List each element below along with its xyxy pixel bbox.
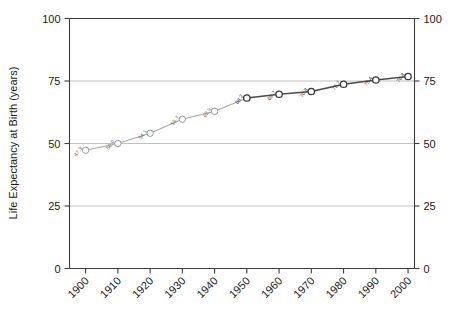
data-point-labels: 47.350.054.159.762.968.269.770.873.775.4… [73, 72, 406, 158]
y-tick-label-left-25: 25 [48, 200, 60, 212]
data-point-1960 [276, 91, 282, 97]
data-series [86, 77, 408, 151]
data-point-1940 [211, 108, 217, 114]
x-tick-label-1970: 1970 [291, 274, 317, 300]
data-point-1930 [179, 116, 185, 122]
x-tick-label-1930: 1930 [162, 274, 188, 300]
data-point-1970 [308, 88, 314, 94]
x-tick-label-1960: 1960 [259, 274, 285, 300]
y-axis-left-ticks: 0255075100 [42, 13, 69, 275]
y-tick-label-left-75: 75 [48, 75, 60, 87]
x-tick-label-1940: 1940 [194, 274, 220, 300]
y-tick-label-right-100: 100 [424, 13, 442, 25]
y-tick-label-right-0: 0 [424, 263, 430, 275]
x-tick-label-1990: 1990 [355, 274, 381, 300]
y-axis-title: Life Expectancy at Birth (years) [7, 67, 19, 220]
x-tick-label-1950: 1950 [226, 274, 252, 300]
y-tick-label-right-75: 75 [424, 75, 436, 87]
gridlines [70, 19, 415, 207]
x-tick-label-1920: 1920 [130, 274, 156, 300]
x-tick-label-1980: 1980 [323, 274, 349, 300]
life-expectancy-chart: 0255075100 0255075100 190019101920193019… [0, 0, 463, 329]
data-point-1900 [82, 147, 88, 153]
y-tick-label-right-25: 25 [424, 200, 436, 212]
data-point-1910 [115, 140, 121, 146]
y-axis-right-ticks: 0255075100 [415, 13, 442, 275]
x-axis-ticks: 1900191019201930194019501960197019801990… [65, 269, 413, 301]
y-tick-label-left-0: 0 [54, 263, 60, 275]
data-point-1950 [244, 95, 250, 101]
chart-canvas: 0255075100 0255075100 190019101920193019… [0, 0, 463, 329]
data-markers [82, 73, 411, 153]
y-tick-label-left-100: 100 [42, 13, 60, 25]
data-point-label-1900: 47.3 [73, 145, 84, 157]
x-tick-label-1910: 1910 [97, 274, 123, 300]
y-tick-label-right-50: 50 [424, 138, 436, 150]
data-point-1920 [147, 130, 153, 136]
data-point-1990 [373, 77, 379, 83]
y-tick-label-left-50: 50 [48, 138, 60, 150]
data-point-1980 [340, 81, 346, 87]
data-point-label-1970: 70.8 [298, 87, 309, 99]
data-point-2000 [405, 73, 411, 79]
x-tick-label-2000: 2000 [388, 274, 414, 300]
x-tick-label-1900: 1900 [65, 274, 91, 300]
